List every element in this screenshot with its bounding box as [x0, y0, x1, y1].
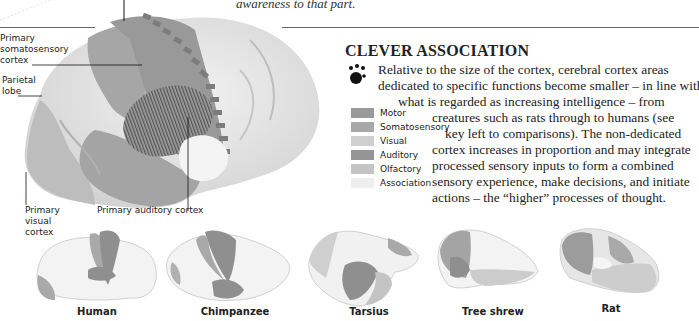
human-brain-illustration — [37, 230, 156, 300]
comparison-label-tarsius: Tarsius — [344, 306, 394, 317]
rat-brain-illustration — [560, 229, 659, 293]
comparison-brains — [0, 0, 699, 321]
chimpanzee-brain-illustration — [166, 230, 289, 300]
comparison-label-chimpanzee: Chimpanzee — [200, 306, 270, 317]
comparison-label-tree-shrew: Tree shrew — [462, 306, 522, 317]
comparison-label-rat: Rat — [596, 303, 626, 314]
tarsius-brain-illustration — [309, 231, 419, 306]
tree-shrew-brain-illustration — [438, 230, 538, 288]
comparison-label-human: Human — [72, 306, 122, 317]
